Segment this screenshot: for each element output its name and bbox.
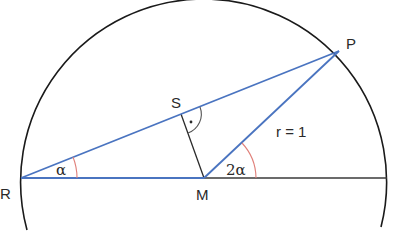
label-M: M: [196, 186, 209, 203]
label-alpha: α: [56, 161, 66, 179]
label-S: S: [171, 94, 181, 111]
segment-M-P: [204, 51, 339, 178]
angle-arc-alpha: [73, 157, 77, 178]
label-P: P: [346, 35, 356, 52]
label-two-alpha: 2α: [226, 161, 246, 179]
segment-S-M: [181, 114, 204, 178]
right-angle-dot: [190, 121, 193, 124]
label-R: R: [0, 185, 11, 202]
segment-R-P: [21, 51, 339, 178]
label-radius: r = 1: [276, 123, 306, 140]
geometry-diagram: P S R M r = 1 α 2α: [0, 0, 397, 248]
